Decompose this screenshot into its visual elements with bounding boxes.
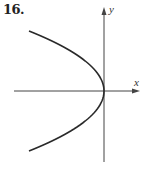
x-axis-arrow-icon bbox=[132, 89, 140, 94]
y-axis-arrow-icon bbox=[102, 7, 107, 15]
chart-plot bbox=[0, 0, 144, 173]
